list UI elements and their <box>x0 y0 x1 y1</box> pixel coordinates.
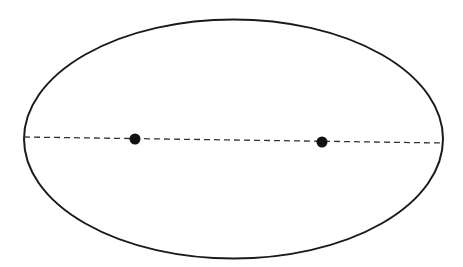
ellipse-diagram <box>0 0 463 267</box>
major-axis-dashed-line <box>24 137 443 143</box>
focus-point-left <box>130 134 141 145</box>
focus-point-right <box>317 137 328 148</box>
ellipse-outline <box>24 20 443 259</box>
